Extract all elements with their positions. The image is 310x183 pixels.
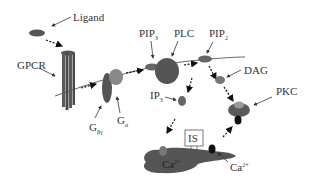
plc (155, 58, 179, 84)
ligand-pointer (52, 17, 71, 26)
ligand-to-gpcr-arrow (46, 40, 62, 46)
pip3-label: PIP3 (139, 27, 158, 41)
ip3-to-er-arrow (167, 119, 175, 133)
endoplasmic-reticulum (144, 148, 236, 173)
ip3-pointer (165, 97, 176, 100)
calcium-label: Ca2+ (230, 161, 249, 173)
gpcr-pointer (39, 68, 55, 76)
calcium-ion (209, 145, 216, 154)
plc-label: PLC (174, 27, 194, 39)
g-alpha-pointer (117, 97, 120, 113)
signaling-pathway-diagram: Ligand GPCR Gβγ Gα PIP3 PLC PIP2 DAG IP3 (0, 0, 310, 183)
ligand-label: Ligand (73, 11, 105, 23)
ip3 (178, 96, 186, 106)
plc-pointer (172, 41, 178, 56)
ip3-label: IP3 (150, 89, 163, 103)
gpcr-receptor (61, 51, 75, 111)
ligand (29, 30, 45, 37)
plc-to-pip2-arrow (184, 63, 197, 65)
is-label: IS (188, 132, 198, 144)
dag (215, 76, 225, 84)
dag-label: DAG (244, 64, 268, 76)
pip2 (198, 56, 212, 63)
pip2-label: PIP2 (209, 27, 228, 41)
dag-pointer (227, 70, 241, 77)
pkc-label: PKC (276, 85, 297, 97)
pkc-pointer (254, 97, 272, 105)
g-beta-gamma-label: Gβγ (89, 121, 103, 135)
plc-to-ip3-arrow (188, 78, 192, 92)
g-alpha-label: Gα (117, 114, 129, 128)
pip2-to-dag-arrow (209, 66, 216, 79)
pip2-pointer (207, 42, 213, 53)
ip3-receptor (159, 146, 167, 156)
pkc (228, 102, 250, 125)
pip3-pointer (151, 41, 153, 58)
ca-to-pkc-arrow (223, 127, 232, 137)
g-protein (102, 69, 123, 103)
g-beta-gamma-pointer (95, 106, 101, 118)
dag-to-pkc-arrow (224, 87, 233, 101)
